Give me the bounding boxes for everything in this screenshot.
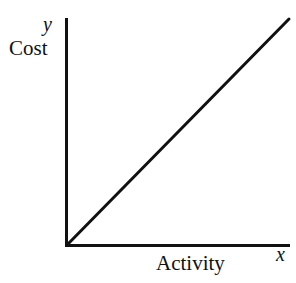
variable-cost-line [67, 19, 290, 246]
x-axis-title: Activity [156, 253, 225, 274]
x-axis-symbol-label: x [276, 244, 285, 264]
cost-activity-chart: y Cost x Activity [0, 0, 296, 283]
y-axis-title: Cost [9, 38, 48, 59]
y-axis-symbol-label: y [43, 14, 52, 34]
